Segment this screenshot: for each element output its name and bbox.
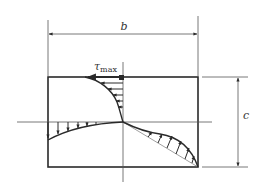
tau-max-label: τmax: [94, 60, 117, 74]
shear-stress-diagram: b c τmax: [0, 0, 264, 187]
width-label: b: [120, 20, 127, 33]
left-shear-distribution: [48, 122, 123, 140]
upper-shear-distribution: [85, 75, 124, 122]
height-label: c: [243, 109, 249, 122]
diagonal-shear-distribution: [123, 122, 198, 167]
